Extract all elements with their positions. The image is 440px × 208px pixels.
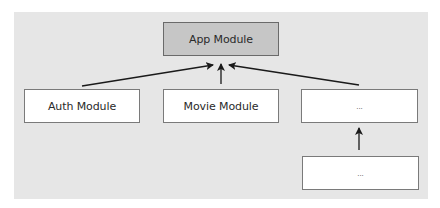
other-module-node: ... xyxy=(301,89,418,123)
other-child-module-label: ... xyxy=(357,170,363,178)
other-child-module-node: ... xyxy=(302,156,419,190)
auth-module-node: Auth Module xyxy=(24,89,140,123)
movie-module-label: Movie Module xyxy=(184,100,259,113)
app-module-node: App Module xyxy=(163,22,279,56)
app-module-label: App Module xyxy=(189,33,253,46)
other-module-label: ... xyxy=(356,103,362,111)
auth-module-label: Auth Module xyxy=(48,100,116,113)
movie-module-node: Movie Module xyxy=(163,89,279,123)
